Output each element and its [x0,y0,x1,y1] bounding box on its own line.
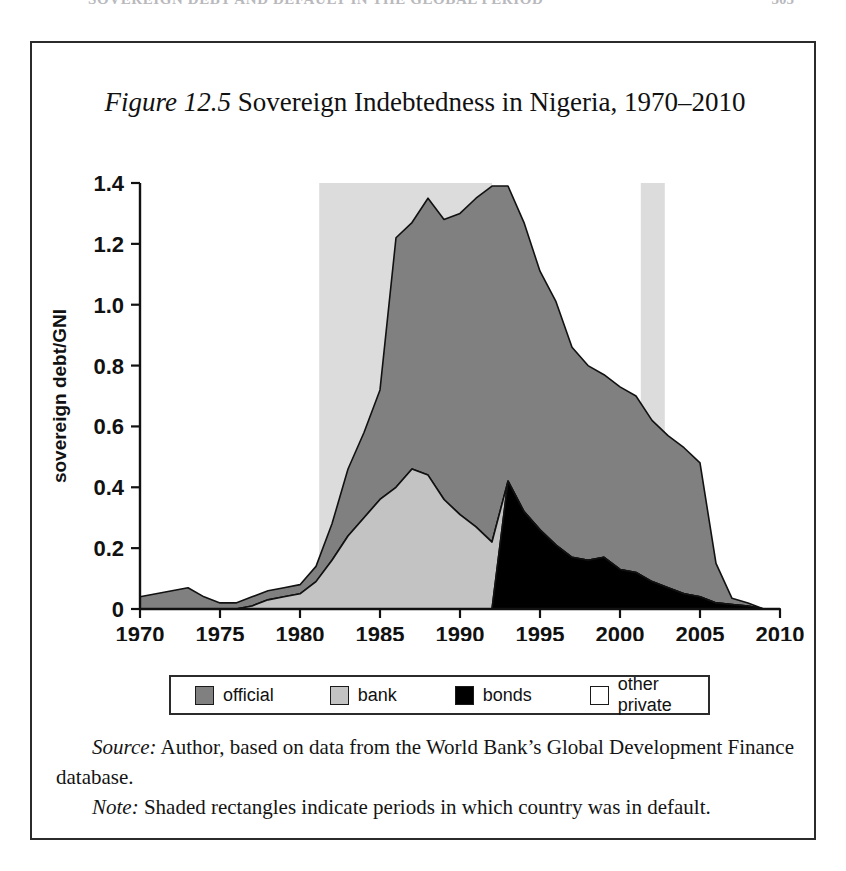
legend-swatch-bonds-icon [455,686,474,705]
x-tick-label: 1995 [516,622,565,641]
chart-series-areas [140,186,780,609]
legend-label-official: official [223,685,274,706]
y-axis-title: sovereign debt/GNI [49,309,70,483]
y-tick-label: 0.8 [93,354,124,379]
legend-swatch-bank-icon [330,686,349,705]
caption-note-text: Shaded rectangles indicate periods in wh… [139,795,711,819]
legend-swatch-other-private-icon [590,686,609,705]
x-axis-tick-labels: 197019751980198519901995200020052010 [116,622,805,641]
x-tick-label: 2010 [756,622,805,641]
page-number: 305 [772,0,795,8]
caption-source: Source: Author, based on data from the W… [56,733,796,793]
chart-plot-area: 197019751980198519901995200020052010 00.… [32,131,818,641]
figure-title: Figure 12.5 Sovereign Indebtedness in Ni… [32,87,818,118]
x-tick-label: 1990 [436,622,485,641]
y-tick-label: 0.4 [93,475,124,500]
y-tick-label: 0.6 [93,414,124,439]
y-tick-label: 1.0 [93,293,124,318]
y-axis-title-text: sovereign debt/GNI [49,309,70,483]
figure-container: Figure 12.5 Sovereign Indebtedness in Ni… [30,41,816,840]
y-tick-label: 1.2 [93,232,124,257]
caption-source-text: Author, based on data from the World Ban… [56,735,794,789]
figure-caption: Source: Author, based on data from the W… [56,733,796,822]
legend-item-official[interactable]: official [195,685,274,706]
figure-number-label: Figure 12.5 [105,87,231,117]
y-tick-label: 0 [112,597,124,622]
legend-label-other-private: other private [618,674,708,716]
page-running-head: SOVEREIGN DEBT AND DEFAULT IN THE GLOBAL… [0,0,846,14]
x-tick-label: 1980 [276,622,325,641]
figure-title-text: Sovereign Indebtedness in Nigeria, 1970–… [231,87,745,117]
legend-label-bank: bank [358,685,397,706]
caption-note-label: Note: [92,795,139,819]
x-tick-label: 1970 [116,622,165,641]
x-tick-label: 2005 [676,622,725,641]
y-tick-label: 0.2 [93,536,124,561]
legend-item-bank[interactable]: bank [330,685,397,706]
running-head-title: SOVEREIGN DEBT AND DEFAULT IN THE GLOBAL… [88,0,543,8]
y-tick-label: 1.4 [93,171,124,196]
y-axis-tick-labels: 00.20.40.60.81.01.21.4 [93,171,124,622]
x-tick-label: 1975 [196,622,245,641]
x-tick-label: 1985 [356,622,405,641]
caption-note: Note: Shaded rectangles indicate periods… [56,793,796,823]
legend-item-bonds[interactable]: bonds [455,685,532,706]
legend-swatch-official-icon [195,686,214,705]
x-tick-label: 2000 [596,622,645,641]
stacked-area-chart: 197019751980198519901995200020052010 00.… [32,131,818,641]
legend-item-other-private[interactable]: other private [590,674,708,716]
caption-source-label: Source: [92,735,157,759]
legend-label-bonds: bonds [483,685,532,706]
chart-legend: official bank bonds other private [169,675,710,715]
